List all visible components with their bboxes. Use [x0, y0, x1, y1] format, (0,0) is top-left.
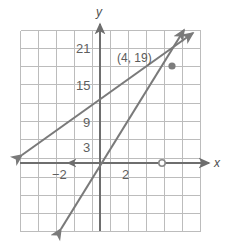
point-label: (4, 19) [117, 52, 152, 64]
grid-lines [21, 31, 201, 232]
axis-lines [20, 24, 209, 231]
intersection-point-marker [168, 62, 175, 69]
shallow-line [22, 33, 193, 155]
y-axis-label: y [96, 6, 102, 18]
open-circle-marker [159, 160, 165, 166]
x-axis-label: x [214, 157, 220, 169]
coordinate-plane-svg [0, 0, 233, 242]
y-tick-9: 9 [83, 116, 90, 129]
x-tick-neg2: −2 [52, 168, 67, 181]
y-tick-15: 15 [76, 79, 90, 92]
x-tick-2: 2 [122, 168, 129, 181]
graph-figure: 21 15 9 3 −2 2 y x (4, 19) [0, 0, 233, 242]
y-tick-3: 3 [83, 141, 90, 154]
y-tick-21: 21 [76, 42, 90, 55]
